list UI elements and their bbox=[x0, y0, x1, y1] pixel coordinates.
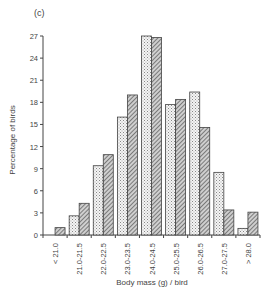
x-tick-label: < 21.0 bbox=[51, 243, 60, 264]
bar-light bbox=[117, 117, 127, 235]
y-tick-label: 0 bbox=[34, 231, 38, 240]
bar-dark bbox=[79, 203, 89, 235]
bar-dark bbox=[103, 155, 113, 235]
bar-light bbox=[238, 228, 248, 235]
bar-dark bbox=[176, 99, 186, 235]
x-tick-label: 27.0-27.5 bbox=[220, 243, 229, 275]
x-tick-label: 26.0-26.5 bbox=[196, 243, 205, 275]
bar-light bbox=[190, 92, 200, 235]
x-tick-label: > 28.0 bbox=[244, 243, 253, 264]
x-tick-label: 24.0-24.5 bbox=[148, 243, 157, 275]
bar-light bbox=[214, 172, 224, 235]
bar-light bbox=[93, 166, 103, 235]
y-axis-label: Percentage of birds bbox=[8, 105, 17, 174]
bars bbox=[55, 36, 258, 235]
y-tick-label: 24 bbox=[30, 54, 38, 63]
bar-dark bbox=[224, 210, 234, 235]
x-axis-label: Body mass (g) / bird bbox=[116, 278, 188, 287]
y-tick-label: 27 bbox=[30, 32, 38, 41]
y-tick-label: 18 bbox=[30, 98, 38, 107]
y-tick-label: 15 bbox=[30, 120, 38, 129]
x-tick-label: 23.0-23.5 bbox=[123, 243, 132, 275]
y-tick-label: 12 bbox=[30, 143, 38, 152]
bar-dark bbox=[200, 127, 210, 235]
bar-light bbox=[166, 105, 176, 235]
bar-dark bbox=[248, 212, 258, 235]
x-tick-label: 22.0-22.5 bbox=[99, 243, 108, 275]
y-tick-label: 3 bbox=[34, 209, 38, 218]
x-tick-label: 25.0-25.5 bbox=[172, 243, 181, 275]
bar-dark bbox=[55, 228, 65, 235]
y-tick-label: 21 bbox=[30, 76, 38, 85]
bar-chart: 0369121518212427< 21.021.0-21.522.0-22.5… bbox=[0, 0, 271, 303]
bar-dark bbox=[127, 95, 137, 235]
x-tick-label: 21.0-21.5 bbox=[75, 243, 84, 275]
bar-dark bbox=[152, 37, 162, 235]
panel-label: (c) bbox=[34, 8, 45, 18]
bar-light bbox=[142, 36, 152, 235]
y-tick-label: 9 bbox=[34, 165, 38, 174]
bar-light bbox=[69, 216, 79, 235]
y-tick-label: 6 bbox=[34, 187, 38, 196]
